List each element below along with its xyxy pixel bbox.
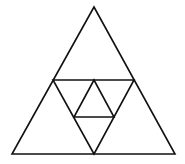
triangle-diagram bbox=[0, 0, 185, 164]
inner-triangle bbox=[74, 80, 114, 117]
diagram-canvas bbox=[0, 0, 185, 164]
